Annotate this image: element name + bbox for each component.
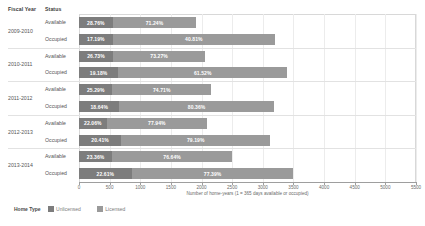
chart-row[interactable]: Available28.76%71.24% <box>0 14 425 30</box>
chart-row[interactable]: Available23.36%76.64% <box>0 148 425 164</box>
axis-tick-label: 5000 <box>380 185 390 190</box>
axis-tick-label: 2000 <box>196 185 206 190</box>
axis-tick-label: 0 <box>78 185 81 190</box>
stacked-bar[interactable]: 26.73%73.27% <box>79 51 205 62</box>
status-label: Available <box>45 53 66 59</box>
axis-tick-label: 4000 <box>319 185 329 190</box>
stacked-bar[interactable]: 25.29%74.71% <box>79 84 211 95</box>
bar-segment[interactable]: 25.29% <box>79 84 112 95</box>
chart-row[interactable]: Available26.73%73.27% <box>0 48 425 64</box>
status-label: Occupied <box>45 137 67 143</box>
stacked-bar[interactable]: 22.06%77.94% <box>79 118 207 129</box>
axis-tick-label: 500 <box>106 185 114 190</box>
bar-segment[interactable]: 61.52% <box>118 67 287 78</box>
legend: Home Type Unlicensed Licensed <box>14 206 137 212</box>
bar-segment[interactable]: 20.41% <box>79 135 121 146</box>
status-label: Available <box>45 86 66 92</box>
status-label: Occupied <box>45 69 67 75</box>
legend-label-unlicensed: Unlicensed <box>56 206 81 212</box>
bar-segment[interactable]: 76.64% <box>112 151 232 162</box>
chart-row[interactable]: Occupied22.61%77.39% <box>0 165 425 181</box>
legend-title: Home Type <box>14 206 41 212</box>
bar-segment-label: 79.19% <box>187 137 205 143</box>
bar-segment[interactable]: 22.06% <box>79 118 107 129</box>
stacked-bar[interactable]: 17.19%40.81% <box>79 34 275 45</box>
stacked-bar[interactable]: 18.64%80.36% <box>79 101 274 112</box>
bar-segment-label: 22.06% <box>84 120 102 126</box>
legend-label-licensed: Licensed <box>105 206 125 212</box>
bar-segment[interactable]: 74.71% <box>112 84 211 95</box>
status-label: Occupied <box>45 170 67 176</box>
bar-segment[interactable]: 22.61% <box>79 168 132 179</box>
bar-segment[interactable]: 23.36% <box>79 151 112 162</box>
axis-tick-label: 3500 <box>288 185 298 190</box>
chart-row[interactable]: Available22.06%77.94% <box>0 115 425 131</box>
bar-segment-label: 18.64% <box>90 104 108 110</box>
bar-segment-label: 76.64% <box>163 154 181 160</box>
status-label: Available <box>45 120 66 126</box>
axis-tick-label: 1500 <box>166 185 176 190</box>
stacked-bar[interactable]: 23.36%76.64% <box>79 151 232 162</box>
bar-segment-label: 71.24% <box>146 20 164 26</box>
bar-segment-label: 74.71% <box>153 87 171 93</box>
chart-row[interactable]: Occupied17.19%40.81% <box>0 31 425 47</box>
bar-segment-label: 20.41% <box>91 137 109 143</box>
header-fiscal-year: Fiscal Year <box>8 6 36 12</box>
status-label: Available <box>45 153 66 159</box>
status-label: Occupied <box>45 36 67 42</box>
bar-segment-label: 61.52% <box>194 70 212 76</box>
bar-segment-label: 26.73% <box>87 53 105 59</box>
bar-segment[interactable]: 71.24% <box>113 17 196 28</box>
x-axis-line <box>79 182 416 183</box>
chart-row[interactable]: Occupied18.64%80.36% <box>0 98 425 114</box>
chart-row[interactable]: Occupied19.18%61.52% <box>0 64 425 80</box>
bar-segment[interactable]: 80.36% <box>119 101 273 112</box>
bar-segment-label: 80.36% <box>188 104 206 110</box>
bar-segment-label: 25.29% <box>87 87 105 93</box>
bar-segment-label: 22.61% <box>97 171 115 177</box>
bar-segment[interactable]: 79.19% <box>121 135 270 146</box>
axis-tick-label: 2500 <box>227 185 237 190</box>
bar-segment[interactable]: 73.27% <box>113 51 206 62</box>
status-label: Available <box>45 19 66 25</box>
stacked-bar[interactable]: 22.61%77.39% <box>79 168 293 179</box>
legend-swatch-icon-unlicensed <box>48 206 54 212</box>
bar-segment-label: 40.81% <box>185 36 203 42</box>
bar-segment[interactable]: 77.94% <box>107 118 207 129</box>
bar-segment[interactable]: 28.76% <box>79 17 113 28</box>
axis-tick-label: 4500 <box>350 185 360 190</box>
header-status: Status <box>45 6 61 12</box>
legend-swatch-icon-licensed <box>97 206 103 212</box>
stacked-bar[interactable]: 20.41%79.19% <box>79 135 270 146</box>
bar-segment[interactable]: 26.73% <box>79 51 113 62</box>
bar-segment-label: 77.94% <box>148 120 166 126</box>
bar-segment-label: 28.76% <box>87 20 105 26</box>
bar-segment[interactable]: 17.19% <box>79 34 113 45</box>
status-label: Occupied <box>45 103 67 109</box>
bar-segment-label: 19.18% <box>90 70 108 76</box>
bar-segment[interactable]: 19.18% <box>79 67 118 78</box>
bar-segment[interactable]: 77.39% <box>132 168 294 179</box>
axis-tick-label: 1000 <box>135 185 145 190</box>
stacked-bar[interactable]: 19.18%61.52% <box>79 67 287 78</box>
bar-segment-label: 73.27% <box>150 53 168 59</box>
stacked-bar-chart: Fiscal Year Status 2009-2010Available28.… <box>0 0 425 226</box>
bar-segment[interactable]: 40.81% <box>113 34 275 45</box>
stacked-bar[interactable]: 28.76%71.24% <box>79 17 196 28</box>
chart-row[interactable]: Occupied20.41%79.19% <box>0 132 425 148</box>
bar-segment[interactable]: 18.64% <box>79 101 119 112</box>
axis-tick-label: 5500 <box>411 185 421 190</box>
chart-row[interactable]: Available25.29%74.71% <box>0 81 425 97</box>
legend-item-licensed[interactable]: Licensed <box>97 206 126 212</box>
legend-item-unlicensed[interactable]: Unlicensed <box>48 206 81 212</box>
x-axis-title: Number of home-years (1 = 365 days avail… <box>79 191 416 196</box>
bar-segment-label: 77.39% <box>204 171 222 177</box>
bar-segment-label: 23.36% <box>87 154 105 160</box>
axis-tick-label: 3000 <box>258 185 268 190</box>
bar-segment-label: 17.19% <box>87 36 105 42</box>
